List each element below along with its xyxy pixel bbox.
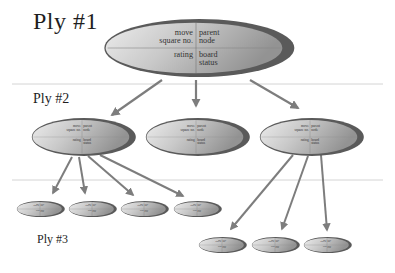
arrow-ply2-to-ply3-a3	[88, 156, 133, 195]
node-field-parent-node: node	[328, 241, 331, 242]
node-field-parent-node: node	[311, 128, 318, 132]
node-field-board-status: status	[197, 141, 205, 145]
node-field-parent-node: node	[223, 241, 226, 242]
node-field-move-square: square no.	[190, 204, 197, 206]
node-field-rating: rating	[323, 245, 327, 247]
node-field-board-status: status	[41, 211, 45, 212]
node-field-board-status: status	[328, 247, 332, 248]
node-field-move-square: square no.	[295, 128, 309, 132]
ply3-node-a4: movesquare no.parentnoderatingboardstatu…	[174, 201, 222, 217]
ply2-node-1: movesquare no.parentnoderatingboardstatu…	[32, 118, 136, 156]
arrow-ply2-to-ply3-a1	[53, 157, 72, 193]
node-field-move-square: square no.	[85, 204, 92, 206]
ply3-node-b2: movesquare no.parentnoderatingboardstatu…	[252, 237, 300, 253]
node-field-parent-node: node	[198, 205, 201, 206]
node-field-rating: rating	[174, 50, 193, 59]
node-field-rating: rating	[271, 245, 275, 247]
arrow-ply2-to-ply3-b2	[282, 156, 308, 229]
node-field-rating: rating	[73, 138, 81, 142]
node-field-move-square: square no.	[215, 240, 222, 242]
node-field-board-status: status	[145, 211, 149, 212]
node-field-move-square: square no.	[320, 240, 327, 242]
node-field-board-status: status	[198, 211, 202, 212]
node-field-rating: rating	[301, 138, 309, 142]
ply3-node-a3: movesquare no.parentnoderatingboardstatu…	[121, 201, 169, 217]
arrow-ply2-to-ply3-b1	[231, 155, 293, 229]
arrow-ply2-to-ply3-b3	[321, 155, 327, 230]
node-field-move-square: square no.	[33, 204, 40, 206]
node-field-move-square: square no.	[181, 128, 195, 132]
ply-1-label: Ply #1	[33, 8, 98, 35]
node-field-board-status: status	[83, 141, 91, 145]
node-field-parent-node: node	[145, 205, 148, 206]
node-field-parent-node: node	[199, 36, 215, 45]
node-field-rating: rating	[36, 209, 40, 211]
node-field-rating: rating	[88, 209, 92, 211]
node-field-rating: rating	[218, 245, 222, 247]
node-field-move-square: square no.	[67, 128, 81, 132]
ply3-node-a1: movesquare no.parentnoderatingboardstatu…	[17, 201, 65, 217]
arrow-ply2-to-ply3-a2	[79, 157, 85, 193]
node-field-board-status: status	[93, 211, 97, 212]
ply2-node-2: movesquare no.parentnoderatingboardstatu…	[146, 118, 250, 156]
node-field-board-status: status	[199, 58, 218, 67]
node-field-parent-node: node	[41, 205, 44, 206]
ply-2-label: Ply #2	[33, 91, 69, 107]
arrow-ply2-to-ply3-a4	[100, 155, 183, 196]
nodes-layer: movesquare no.parentnoderatingboardstatu…	[17, 19, 364, 253]
node-field-move-square: square no.	[159, 36, 193, 45]
game-tree-diagram: movesquare no.parentnoderatingboardstatu…	[0, 0, 395, 273]
ply1-node: movesquare no.parentnoderatingboardstatu…	[104, 19, 294, 77]
node-field-parent-node: node	[197, 128, 204, 132]
node-field-parent-node: node	[276, 241, 279, 242]
node-field-board-status: status	[311, 141, 319, 145]
node-field-parent-node: node	[93, 205, 96, 206]
node-field-rating: rating	[193, 209, 197, 211]
ply3-node-a2: movesquare no.parentnoderatingboardstatu…	[69, 201, 117, 217]
node-field-move-square: square no.	[137, 204, 144, 206]
node-field-rating: rating	[140, 209, 144, 211]
ply2-node-3: movesquare no.parentnoderatingboardstatu…	[260, 118, 364, 156]
node-field-board-status: status	[276, 247, 280, 248]
node-field-rating: rating	[187, 138, 195, 142]
ply-3-label: Ply #3	[37, 232, 68, 247]
node-field-parent-node: node	[83, 128, 90, 132]
ply3-node-b1: movesquare no.parentnoderatingboardstatu…	[199, 237, 247, 253]
node-field-move-square: square no.	[268, 240, 275, 242]
ply3-node-b3: movesquare no.parentnoderatingboardstatu…	[304, 237, 352, 253]
node-field-board-status: status	[223, 247, 227, 248]
arrow-ply1-to-ply2-1	[112, 80, 162, 115]
